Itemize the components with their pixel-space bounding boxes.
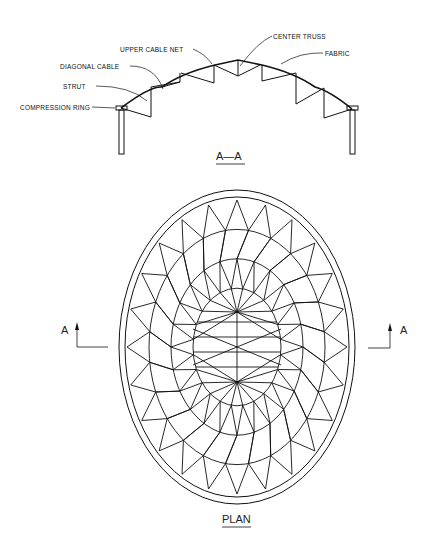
arrow-up-icon [75, 322, 79, 330]
section-title: A—A [216, 150, 242, 162]
drawing-canvas: UPPER CABLE NET CENTER TRUSS FABRIC DIAG… [0, 0, 430, 542]
truss-left-3 [181, 65, 214, 83]
label-fabric: FABRIC [325, 50, 350, 57]
column-right [350, 110, 355, 154]
cable-net [127, 200, 347, 494]
center-truss [214, 65, 260, 76]
arrow-up-icon [388, 323, 392, 331]
leader-compression-ring [92, 107, 115, 108]
leader-upper-cable-net [193, 49, 212, 64]
arch-upper-cable [121, 60, 352, 109]
leader-strut [96, 86, 147, 101]
section-marker-right-label: A [400, 324, 408, 336]
label-upper-cable-net: UPPER CABLE NET [120, 46, 183, 53]
column-left [119, 110, 124, 154]
leader-fabric [281, 53, 323, 64]
label-compression-ring: COMPRESSION RING [20, 104, 90, 111]
plan-view [119, 190, 355, 504]
label-center-truss: CENTER TRUSS [273, 33, 326, 40]
section-a-a [92, 36, 358, 154]
label-strut: STRUT [63, 83, 86, 90]
section-marker-left [75, 322, 108, 347]
label-diagonal-cable: DIAGONAL CABLE [60, 63, 120, 70]
section-marker-right [368, 323, 392, 348]
truss-right-1 [262, 65, 296, 81]
section-marker-left-label: A [61, 324, 69, 336]
plan-title: PLAN [222, 513, 251, 525]
truss-left-2 [151, 73, 180, 87]
